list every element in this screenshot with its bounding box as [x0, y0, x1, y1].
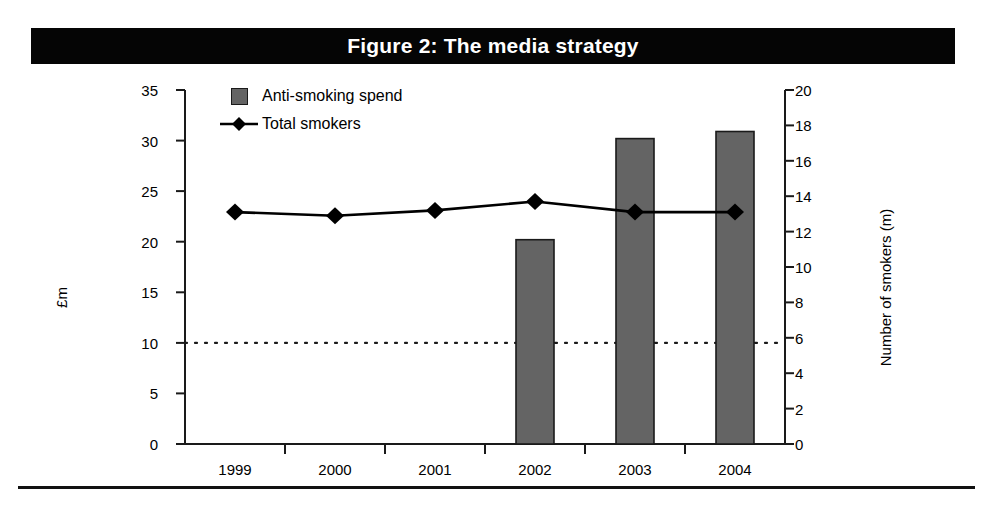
figure-container: Figure 2: The media strategy £m Number o…: [0, 0, 995, 513]
left-axis-ticks: [176, 90, 185, 444]
marker-1999: [226, 204, 244, 221]
figure-bottom-rule: [18, 486, 975, 489]
marker-2002: [526, 193, 544, 210]
plot-area: [0, 64, 995, 484]
right-axis-ticks: [785, 90, 794, 444]
line-series-total-smokers: [235, 202, 735, 216]
bar-series-anti-smoking-spend: [516, 132, 754, 445]
bar-2003: [616, 139, 654, 444]
chart-canvas: £m Number of smokers (m) 35 30 25 20 15 …: [0, 64, 995, 484]
x-axis-ticks: [285, 444, 685, 454]
bar-2002: [516, 240, 554, 444]
line-series-markers: [226, 193, 744, 224]
bar-2004: [716, 132, 754, 445]
marker-2001: [426, 202, 444, 219]
figure-title: Figure 2: The media strategy: [347, 34, 639, 58]
figure-title-bar: Figure 2: The media strategy: [31, 28, 955, 64]
marker-2000: [326, 207, 344, 224]
